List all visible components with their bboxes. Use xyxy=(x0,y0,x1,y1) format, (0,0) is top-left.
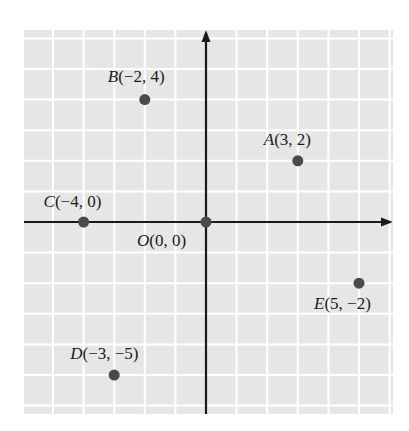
point-label: B(−2, 4) xyxy=(108,67,165,86)
point-label: E(5, −2) xyxy=(313,294,371,313)
point-label: D(−3, −5) xyxy=(69,344,138,363)
point-marker-icon xyxy=(109,370,120,381)
point-marker-icon xyxy=(354,278,365,289)
point-marker-icon xyxy=(201,217,212,228)
point-marker-icon xyxy=(292,155,303,166)
point-marker-icon xyxy=(78,217,89,228)
point-label: O(0, 0) xyxy=(137,231,186,250)
point-label: A(3, 2) xyxy=(263,130,311,149)
point-label: C(−4, 0) xyxy=(44,192,102,211)
point-marker-icon xyxy=(139,94,150,105)
coordinate-plane: A(3, 2)B(−2, 4)C(−4, 0)O(0, 0)E(5, −2)D(… xyxy=(0,0,409,431)
